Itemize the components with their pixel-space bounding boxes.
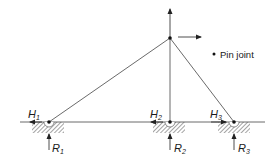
legend-pin-joint-dot-icon [213,53,216,56]
legend-label: Pin joint [220,49,254,60]
apex-pin-joint-icon [168,36,172,40]
R3-label: R3 [238,142,250,155]
frame-diagram: Pin joint H1 R1 H2 R2 H3 R3 [0,0,280,162]
support-3-pin-joint-icon [232,120,236,124]
support-3: H3 R3 [210,108,250,155]
R2-label: R2 [174,142,186,155]
legend: Pin joint [213,49,255,60]
support-1-pin-joint-icon [47,120,51,124]
frame-members [49,38,234,122]
H1-label: H1 [28,108,40,121]
H2-label: H2 [150,108,162,121]
support-2-pin-joint-icon [168,120,172,124]
support-2: H2 R2 [150,108,186,155]
H3-label: H3 [210,108,222,121]
R1-label: R1 [52,142,64,155]
apex-loads [168,9,201,40]
